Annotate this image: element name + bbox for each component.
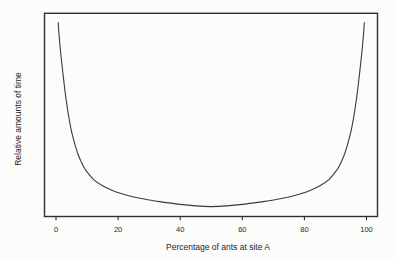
plot-box: [45, 13, 378, 216]
x-tick-label: 20: [114, 225, 122, 234]
y-axis-label: Relative amounts of time: [13, 72, 23, 166]
x-tick-label: 40: [176, 225, 184, 234]
chart-svg: 020406080100 Percentage of ants at site …: [0, 0, 397, 261]
x-axis-label: Percentage of ants at site A: [166, 242, 270, 252]
x-tick-label: 80: [300, 225, 308, 234]
x-tick-label: 100: [360, 225, 373, 234]
relative-time-curve: [58, 23, 364, 207]
x-tick-label: 60: [238, 225, 246, 234]
ant-site-chart-figure: 020406080100 Percentage of ants at site …: [0, 0, 397, 261]
x-axis-ticks: 020406080100: [54, 217, 373, 234]
x-tick-label: 0: [54, 225, 58, 234]
